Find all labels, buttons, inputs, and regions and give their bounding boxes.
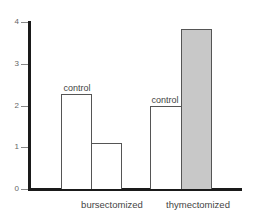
y-tick-label-3: 3: [10, 60, 19, 68]
x-label-thymectomized: thymectomized: [158, 199, 238, 210]
x-label-bursectomized: bursectomized: [72, 199, 152, 210]
y-tick-label-4: 4: [10, 18, 19, 26]
y-tick-4: [21, 22, 28, 23]
y-tick-label-0: 0: [10, 185, 19, 193]
y-tick-label-2: 2: [10, 102, 19, 110]
bar-bursectomized-control: [61, 94, 92, 189]
y-tick-0: [21, 189, 28, 190]
y-tick-label-1: 1: [10, 143, 19, 151]
y-tick-1: [21, 147, 28, 148]
bar-bursectomized-treated: [91, 143, 122, 189]
bar-label-control-2: control: [146, 95, 184, 105]
bar-label-control-1: control: [58, 83, 96, 93]
bar-thymectomized-control: [150, 106, 182, 189]
bar-chart: 0 1 2 3 4 control control bursectomized …: [0, 0, 260, 222]
y-axis: [28, 21, 31, 191]
bar-thymectomized-treated: [181, 29, 212, 189]
y-tick-3: [21, 64, 28, 65]
y-tick-2: [21, 106, 28, 107]
